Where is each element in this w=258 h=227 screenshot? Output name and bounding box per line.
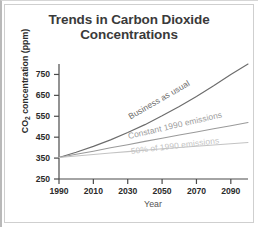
y-tick-label-250: 250 (16, 174, 50, 184)
y-tick-marks (54, 74, 59, 179)
y-axis-title-suffix: concentration (ppm) (20, 29, 30, 116)
y-axis-title-subscript: 2 (24, 116, 31, 120)
y-axis-title: CO2 concentration (ppm) (20, 18, 30, 144)
x-tick-marks (59, 179, 231, 184)
y-axis-title-prefix: CO (20, 120, 30, 133)
chart-figure: Trends in Carbon Dioxide Concentrations … (0, 0, 258, 227)
y-tick-label-350: 350 (16, 153, 50, 163)
x-axis-title: Year (58, 199, 248, 209)
x-tick-label-2090: 2090 (211, 186, 251, 196)
